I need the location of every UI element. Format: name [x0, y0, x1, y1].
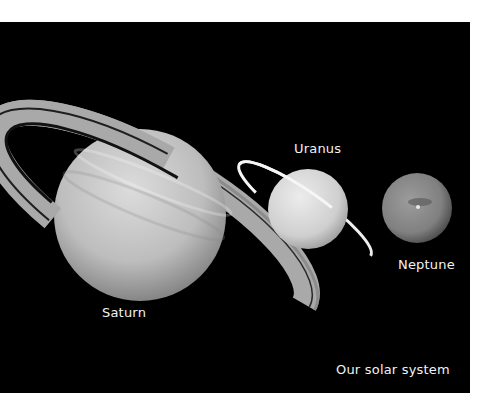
- neptune: [382, 173, 452, 243]
- neptune-bright-cloud: [416, 205, 420, 209]
- neptune-dark-spot: [408, 198, 432, 206]
- neptune-label: Neptune: [398, 257, 455, 272]
- uranus-label: Uranus: [294, 141, 341, 156]
- planets-illustration: [0, 22, 470, 393]
- saturn-label: Saturn: [102, 305, 146, 320]
- space-photo: Saturn Uranus Neptune Our solar system: [0, 22, 470, 393]
- image-caption: Our solar system: [336, 362, 450, 377]
- uranus-globe: [268, 169, 348, 249]
